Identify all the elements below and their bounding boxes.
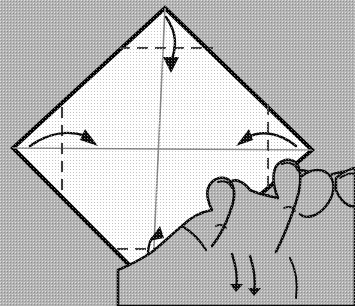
origami-figure bbox=[0, 0, 355, 306]
hand-illustration bbox=[0, 0, 355, 306]
caption-strip bbox=[0, 288, 355, 306]
